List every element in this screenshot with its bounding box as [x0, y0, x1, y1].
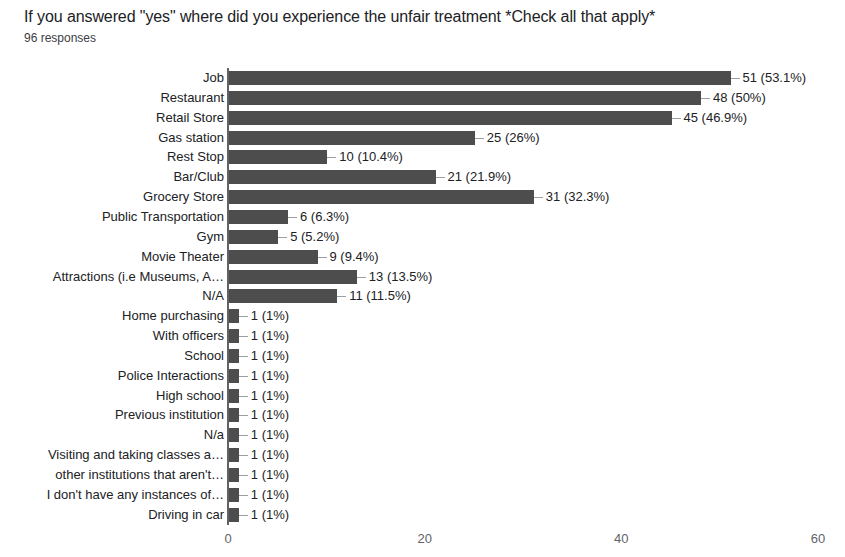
- bar[interactable]: [229, 309, 239, 323]
- value-leader-line: [436, 177, 445, 178]
- bar-row: Grocery Store31 (32.3%): [0, 187, 845, 207]
- bar-value-label: 6 (6.3%): [300, 207, 349, 227]
- bar-value-label: 1 (1%): [251, 326, 289, 346]
- bar-row: With officers1 (1%): [0, 326, 845, 346]
- bar[interactable]: [229, 289, 337, 303]
- category-label: Home purchasing: [122, 306, 224, 326]
- bar-row: Gas station25 (26%): [0, 128, 845, 148]
- bar[interactable]: [229, 468, 239, 482]
- bar[interactable]: [229, 508, 239, 522]
- bar[interactable]: [229, 91, 701, 105]
- bar-row: Driving in car1 (1%): [0, 505, 845, 525]
- x-axis-tick-label: 40: [614, 531, 628, 546]
- value-leader-line: [239, 455, 248, 456]
- category-label: Restaurant: [160, 88, 224, 108]
- bar-value-label: 1 (1%): [251, 505, 289, 525]
- bar-value-label: 45 (46.9%): [684, 108, 748, 128]
- bar[interactable]: [229, 190, 534, 204]
- category-label: Gas station: [158, 128, 224, 148]
- category-label: High school: [156, 386, 224, 406]
- bar-row: Bar/Club21 (21.9%): [0, 167, 845, 187]
- category-label: Attractions (i.e Museums, A…: [53, 267, 224, 287]
- value-leader-line: [318, 257, 327, 258]
- value-leader-line: [239, 376, 248, 377]
- value-leader-line: [239, 495, 248, 496]
- bar-row: Attractions (i.e Museums, A…13 (13.5%): [0, 267, 845, 287]
- x-axis-tick-label: 20: [417, 531, 431, 546]
- x-axis-tick-label: 0: [224, 531, 231, 546]
- category-label: School: [184, 346, 224, 366]
- bar-row: Visiting and taking classes a…1 (1%): [0, 445, 845, 465]
- bar-value-label: 1 (1%): [251, 386, 289, 406]
- value-leader-line: [239, 435, 248, 436]
- bar[interactable]: [229, 389, 239, 403]
- value-leader-line: [278, 237, 287, 238]
- bar-row: Previous institution1 (1%): [0, 405, 845, 425]
- bar[interactable]: [229, 369, 239, 383]
- value-leader-line: [327, 157, 336, 158]
- category-label: With officers: [153, 326, 224, 346]
- bar-value-label: 1 (1%): [251, 465, 289, 485]
- category-label: N/A: [202, 286, 224, 306]
- bar[interactable]: [229, 250, 318, 264]
- category-label: Rest Stop: [167, 147, 224, 167]
- bar-row: Public Transportation6 (6.3%): [0, 207, 845, 227]
- bar-row: High school1 (1%): [0, 386, 845, 406]
- bar[interactable]: [229, 71, 731, 85]
- bar-value-label: 10 (10.4%): [339, 147, 403, 167]
- bar-value-label: 51 (53.1%): [743, 68, 807, 88]
- value-leader-line: [239, 515, 248, 516]
- category-label: Grocery Store: [143, 187, 224, 207]
- bar[interactable]: [229, 428, 239, 442]
- bar-row: Retail Store45 (46.9%): [0, 108, 845, 128]
- bar[interactable]: [229, 111, 672, 125]
- bar-value-label: 1 (1%): [251, 366, 289, 386]
- value-leader-line: [701, 98, 710, 99]
- bar-row: Movie Theater9 (9.4%): [0, 247, 845, 267]
- bar-value-label: 1 (1%): [251, 425, 289, 445]
- value-leader-line: [672, 118, 681, 119]
- bar-row: N/a1 (1%): [0, 425, 845, 445]
- bar-value-label: 25 (26%): [487, 128, 540, 148]
- bar[interactable]: [229, 270, 357, 284]
- value-leader-line: [475, 138, 484, 139]
- bar-value-label: 11 (11.5%): [349, 286, 411, 306]
- bar[interactable]: [229, 170, 436, 184]
- value-leader-line: [288, 217, 297, 218]
- bar-value-label: 1 (1%): [251, 445, 289, 465]
- value-leader-line: [239, 336, 248, 337]
- value-leader-line: [239, 356, 248, 357]
- category-label: Bar/Club: [173, 167, 224, 187]
- value-leader-line: [337, 296, 346, 297]
- bar-row: Restaurant48 (50%): [0, 88, 845, 108]
- bar[interactable]: [229, 448, 239, 462]
- bar-row: Rest Stop10 (10.4%): [0, 147, 845, 167]
- bar-chart-card: If you answered "yes" where did you expe…: [0, 0, 845, 557]
- bar-row: Police Interactions1 (1%): [0, 366, 845, 386]
- bar[interactable]: [229, 349, 239, 363]
- bar[interactable]: [229, 131, 475, 145]
- bar[interactable]: [229, 488, 239, 502]
- bar-value-label: 1 (1%): [251, 485, 289, 505]
- value-leader-line: [239, 475, 248, 476]
- bar[interactable]: [229, 210, 288, 224]
- bar-row: other institutions that aren't…1 (1%): [0, 465, 845, 485]
- value-leader-line: [357, 277, 366, 278]
- category-label: Police Interactions: [118, 366, 224, 386]
- bar-value-label: 1 (1%): [251, 346, 289, 366]
- value-leader-line: [239, 316, 248, 317]
- bar[interactable]: [229, 329, 239, 343]
- bar-value-label: 5 (5.2%): [290, 227, 339, 247]
- category-label: Public Transportation: [102, 207, 224, 227]
- value-leader-line: [534, 197, 543, 198]
- bar-value-label: 9 (9.4%): [330, 247, 379, 267]
- bar-row: School1 (1%): [0, 346, 845, 366]
- bar-row: I don't have any instances of…1 (1%): [0, 485, 845, 505]
- bar[interactable]: [229, 230, 278, 244]
- bar-value-label: 1 (1%): [251, 306, 289, 326]
- plot-area: Job51 (53.1%)Restaurant48 (50%)Retail St…: [0, 0, 845, 557]
- bar[interactable]: [229, 150, 327, 164]
- bar[interactable]: [229, 408, 239, 422]
- category-label: other institutions that aren't…: [55, 465, 224, 485]
- value-leader-line: [239, 415, 248, 416]
